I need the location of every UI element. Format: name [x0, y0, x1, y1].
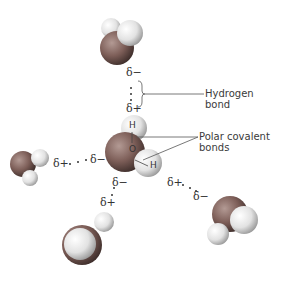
charge-top-plus: δ+ [126, 102, 142, 115]
charge-center-bottom-minus: δ− [112, 176, 128, 189]
polar-covalent-label: Polar covalent bonds [199, 131, 270, 153]
water-molecule-right [207, 196, 258, 245]
charge-left-plus: δ+ [53, 157, 69, 170]
charge-left-minus: δ− [90, 153, 106, 166]
charge-bottom-plus: δ+ [100, 196, 116, 209]
atom-o-center: O [129, 144, 136, 154]
polar-covalent-leader-2 [143, 137, 198, 160]
charge-right-minus: δ− [193, 190, 209, 203]
water-molecule-bottom [62, 212, 114, 265]
hydrogen-bond-dots-left [69, 159, 87, 165]
hydrogen-bond-label: Hydrogen bond [205, 88, 254, 110]
hydrogen-bond-dots-top [130, 87, 132, 101]
atom-h-top: H [129, 120, 136, 130]
charge-right-plus: δ+ [167, 176, 183, 189]
water-molecule-left [10, 149, 49, 186]
charge-top-minus: δ− [126, 66, 142, 79]
water-molecule-top [100, 18, 143, 65]
atom-h-right: H [150, 160, 157, 170]
